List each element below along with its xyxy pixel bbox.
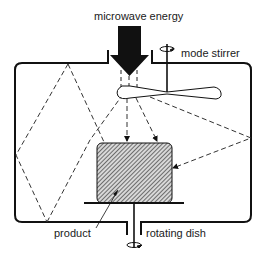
product-block — [97, 143, 172, 203]
microwave-energy-label: microwave energy — [94, 11, 183, 22]
product-label: product — [54, 228, 91, 239]
mode-stirrer-blade — [117, 86, 221, 99]
mode-stirrer-label: mode stirrer — [181, 48, 240, 59]
microwave-energy-arrow-icon — [110, 26, 149, 76]
rotating-dish-label: rotating dish — [146, 228, 206, 239]
microwave-oven-diagram — [0, 0, 265, 261]
